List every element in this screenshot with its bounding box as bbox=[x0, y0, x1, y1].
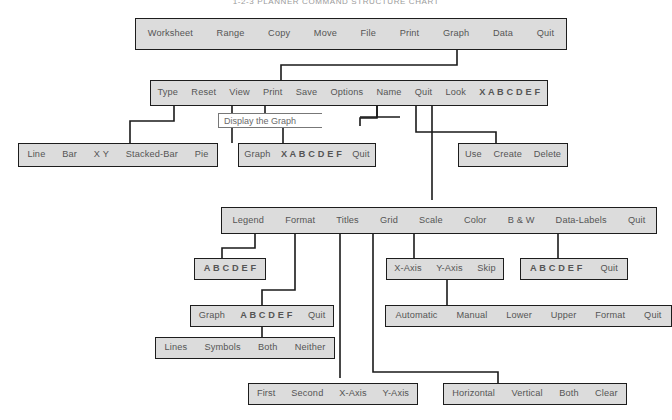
options-menu-item-quit[interactable]: Quit bbox=[628, 216, 645, 225]
link-name bbox=[416, 106, 496, 143]
name-menu[interactable]: Use Create Delete bbox=[458, 143, 568, 167]
format-menu-item-quit[interactable]: Quit bbox=[308, 311, 325, 320]
graph-menu-item-look[interactable]: Look bbox=[446, 88, 467, 97]
options-menu-item-data-labels[interactable]: Data-Labels bbox=[556, 216, 607, 225]
format-style-menu[interactable]: Lines Symbols Both Neither bbox=[155, 337, 335, 359]
scale-axis-menu-item-format[interactable]: Format bbox=[595, 311, 625, 320]
data-labels-menu-item-range[interactable]: A B C D E F bbox=[530, 264, 582, 273]
link-graph bbox=[281, 50, 457, 80]
menu-item-data[interactable]: Data bbox=[493, 29, 513, 38]
command-structure-chart: 1-2-3 PLANNER COMMAND STRUCTURE CHART Wo… bbox=[0, 0, 672, 420]
format-style-menu-item-both[interactable]: Both bbox=[258, 343, 278, 352]
graph-menu-item-look-range[interactable]: X A B C D E F bbox=[479, 88, 540, 97]
link-options-a bbox=[360, 106, 377, 126]
format-menu-item-graph[interactable]: Graph bbox=[199, 311, 225, 320]
link-type bbox=[130, 106, 174, 143]
view-callout: Display the Graph bbox=[218, 113, 322, 128]
data-labels-menu[interactable]: A B C D E F Quit bbox=[520, 258, 628, 280]
graph-menu-item-print[interactable]: Print bbox=[263, 88, 283, 97]
menu-item-copy[interactable]: Copy bbox=[268, 29, 290, 38]
options-menu-item-legend[interactable]: Legend bbox=[233, 216, 265, 225]
graph-menu-item-options[interactable]: Options bbox=[331, 88, 364, 97]
format-menu-item-range[interactable]: A B C D E F bbox=[240, 311, 292, 320]
grid-menu-item-vertical[interactable]: Vertical bbox=[511, 389, 542, 398]
type-menu-item-bar[interactable]: Bar bbox=[62, 150, 77, 159]
scale-menu-item-skip[interactable]: Skip bbox=[477, 264, 495, 273]
format-menu[interactable]: Graph A B C D E F Quit bbox=[190, 305, 334, 327]
titles-menu-item-second[interactable]: Second bbox=[291, 389, 323, 398]
scale-menu-item-y-axis[interactable]: Y-Axis bbox=[436, 264, 463, 273]
titles-menu-item-x-axis[interactable]: X-Axis bbox=[339, 389, 366, 398]
options-menu[interactable]: Legend Format Titles Grid Scale Color B … bbox=[221, 207, 657, 234]
type-menu[interactable]: Line Bar X Y Stacked-Bar Pie bbox=[18, 143, 218, 167]
format-style-menu-item-neither[interactable]: Neither bbox=[295, 343, 326, 352]
link-format bbox=[262, 234, 295, 305]
name-menu-item-use[interactable]: Use bbox=[465, 150, 482, 159]
graph-menu-item-view[interactable]: View bbox=[229, 88, 249, 97]
scale-axis-menu-item-quit[interactable]: Quit bbox=[644, 311, 661, 320]
options-menu-item-color[interactable]: Color bbox=[464, 216, 487, 225]
link-legend bbox=[222, 234, 255, 258]
graph-menu-item-save[interactable]: Save bbox=[296, 88, 318, 97]
view-callout-label: Display the Graph bbox=[224, 116, 296, 126]
main-menu[interactable]: Worksheet Range Copy Move File Print Gra… bbox=[135, 18, 567, 50]
options-menu-item-bw[interactable]: B & W bbox=[508, 216, 535, 225]
grid-menu-item-horizontal[interactable]: Horizontal bbox=[452, 389, 495, 398]
reset-menu-item-quit[interactable]: Quit bbox=[352, 150, 369, 159]
scale-axis-menu-item-lower[interactable]: Lower bbox=[506, 311, 532, 320]
titles-menu[interactable]: First Second X-Axis Y-Axis bbox=[248, 383, 418, 405]
reset-menu[interactable]: Graph X A B C D E F Quit bbox=[238, 143, 376, 167]
graph-menu-item-type[interactable]: Type bbox=[158, 88, 179, 97]
type-menu-item-stacked-bar[interactable]: Stacked-Bar bbox=[126, 150, 178, 159]
graph-menu[interactable]: Type Reset View Print Save Options Name … bbox=[150, 80, 548, 106]
legend-menu-item-range[interactable]: A B C D E F bbox=[204, 264, 256, 273]
menu-item-file[interactable]: File bbox=[361, 29, 376, 38]
scale-axis-menu-item-upper[interactable]: Upper bbox=[551, 311, 577, 320]
grid-menu-item-both[interactable]: Both bbox=[559, 389, 579, 398]
scale-axis-menu-item-automatic[interactable]: Automatic bbox=[395, 311, 437, 320]
type-menu-item-pie[interactable]: Pie bbox=[195, 150, 209, 159]
options-menu-item-format[interactable]: Format bbox=[285, 216, 315, 225]
menu-item-move[interactable]: Move bbox=[314, 29, 337, 38]
graph-menu-item-quit[interactable]: Quit bbox=[415, 88, 432, 97]
name-menu-item-create[interactable]: Create bbox=[493, 150, 521, 159]
type-menu-item-xy[interactable]: X Y bbox=[94, 150, 109, 159]
menu-item-quit[interactable]: Quit bbox=[537, 29, 554, 38]
graph-menu-item-name[interactable]: Name bbox=[377, 88, 402, 97]
grid-menu-item-clear[interactable]: Clear bbox=[595, 389, 618, 398]
options-menu-item-grid[interactable]: Grid bbox=[380, 216, 398, 225]
format-style-menu-item-lines[interactable]: Lines bbox=[165, 343, 188, 352]
scale-menu[interactable]: X-Axis Y-Axis Skip bbox=[386, 258, 504, 280]
titles-menu-item-first[interactable]: First bbox=[257, 389, 276, 398]
type-menu-item-line[interactable]: Line bbox=[27, 150, 45, 159]
scale-axis-menu[interactable]: Automatic Manual Lower Upper Format Quit bbox=[385, 305, 672, 327]
graph-menu-item-reset[interactable]: Reset bbox=[191, 88, 216, 97]
legend-menu[interactable]: A B C D E F bbox=[194, 258, 266, 280]
menu-item-range[interactable]: Range bbox=[217, 29, 245, 38]
format-style-menu-item-symbols[interactable]: Symbols bbox=[205, 343, 241, 352]
menu-item-graph[interactable]: Graph bbox=[443, 29, 469, 38]
scale-menu-item-x-axis[interactable]: X-Axis bbox=[394, 264, 421, 273]
data-labels-menu-item-quit[interactable]: Quit bbox=[601, 264, 618, 273]
reset-menu-item-range[interactable]: X A B C D E F bbox=[281, 150, 342, 159]
menu-item-print[interactable]: Print bbox=[400, 29, 420, 38]
scale-axis-menu-item-manual[interactable]: Manual bbox=[456, 311, 487, 320]
menu-item-worksheet[interactable]: Worksheet bbox=[148, 29, 193, 38]
reset-menu-item-graph[interactable]: Graph bbox=[244, 150, 270, 159]
options-menu-item-titles[interactable]: Titles bbox=[336, 216, 359, 225]
options-menu-item-scale[interactable]: Scale bbox=[419, 216, 443, 225]
grid-menu[interactable]: Horizontal Vertical Both Clear bbox=[443, 383, 627, 405]
titles-menu-item-y-axis[interactable]: Y-Axis bbox=[382, 389, 409, 398]
name-menu-item-delete[interactable]: Delete bbox=[534, 150, 561, 159]
